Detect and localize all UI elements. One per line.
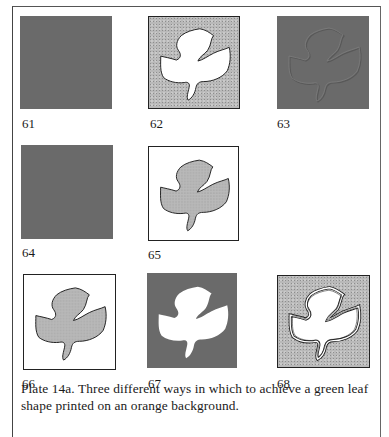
leaf-cutout-icon [149, 17, 239, 108]
leaf-white-icon [147, 273, 237, 368]
panel-61 [20, 16, 112, 109]
plate-caption: Plate 14a. Three different ways in which… [21, 380, 377, 414]
panel-65 [148, 146, 239, 241]
panel-label-65: 65 [148, 248, 161, 262]
leaf-filled-icon [149, 147, 238, 240]
panel-64 [21, 145, 113, 239]
panel-68 [277, 275, 370, 368]
panel-67 [147, 273, 237, 368]
panel-label-63: 63 [277, 117, 290, 131]
leaf-emboss-icon [277, 16, 369, 109]
leaf-filled-icon [24, 275, 115, 369]
panel-66 [23, 274, 116, 370]
caption-line-1: Plate 14a. Three different ways in which… [21, 380, 377, 397]
panel-62 [148, 16, 240, 109]
panel-label-61: 61 [22, 117, 35, 131]
panel-label-62: 62 [150, 117, 163, 131]
caption-line-2: shape printed on an orange background. [21, 397, 377, 414]
panel-label-64: 64 [22, 246, 35, 260]
panel-63 [277, 16, 369, 109]
leaf-double-outline-icon [278, 276, 369, 367]
